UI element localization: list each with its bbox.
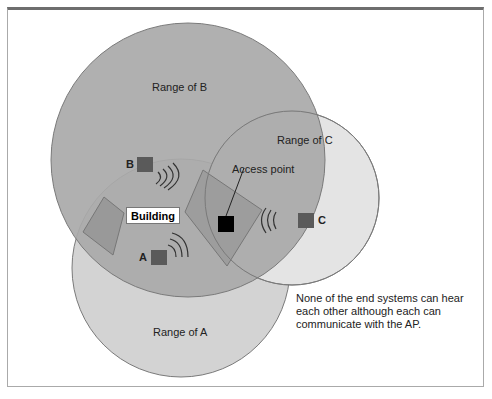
diagram-canvas [0,0,492,399]
explanation-note: None of the end systems can hear each ot… [296,292,476,331]
access-point-label: Access point [232,163,294,175]
node-c [298,213,314,228]
building-label: Building [126,207,180,224]
range-a-label: Range of A [153,326,207,338]
node-a-label: A [139,251,147,263]
node-c-label: C [318,214,326,226]
node-b [137,157,153,172]
range-b-label: Range of B [152,81,207,93]
range-c-label: Range of C [277,134,333,146]
access-point [218,216,234,232]
node-a [151,250,167,265]
node-b-label: B [126,158,134,170]
